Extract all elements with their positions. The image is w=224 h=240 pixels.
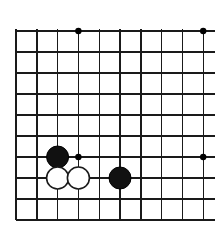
star-lower-left-icon: [75, 154, 81, 160]
go-board-figure: [0, 0, 224, 240]
go-board-canvas[interactable]: [0, 0, 224, 240]
board-grid-horizontal-lines: [16, 31, 215, 220]
board-grid-vertical-lines: [16, 29, 203, 220]
board-stones[interactable]: [47, 146, 131, 189]
star-lower-right-icon: [200, 154, 206, 160]
white-stone-right[interactable]: [67, 167, 89, 189]
black-stone-right[interactable]: [109, 167, 131, 189]
white-stone-left[interactable]: [47, 167, 69, 189]
star-top-left-icon: [75, 28, 81, 34]
black-stone-upper-left[interactable]: [47, 146, 69, 168]
star-top-right-icon: [200, 28, 206, 34]
